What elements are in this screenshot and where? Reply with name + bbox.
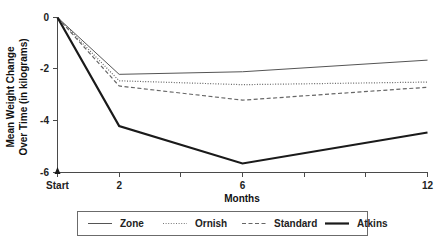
series-line-atkins [58, 18, 428, 164]
y-axis-ticks: 0 -2 -4 -6 [40, 12, 57, 178]
start-marker-icon [55, 167, 61, 174]
series-group [58, 18, 428, 164]
legend-label-zone: Zone [120, 218, 144, 229]
y-axis-title: Mean Weight Change Over Time (in kilogra… [5, 38, 29, 155]
y-axis-title-line-1: Mean Weight Change [5, 46, 16, 147]
x-tick-label-12: 12 [422, 180, 434, 191]
x-tick-label-start: Start [46, 180, 69, 191]
x-tick-label-2: 2 [116, 180, 122, 191]
legend-label-ornish: Ornish [195, 218, 227, 229]
series-line-standard [58, 18, 428, 101]
x-tick-label-6: 6 [240, 180, 246, 191]
y-tick-label-0: 0 [43, 12, 49, 23]
weight-change-line-chart: Mean Weight Change Over Time (in kilogra… [0, 0, 438, 241]
legend-label-standard: Standard [274, 218, 317, 229]
series-line-zone [58, 18, 428, 75]
x-axis-tick-labels: Start 2 6 12 [46, 180, 433, 191]
y-axis-title-line-2: Over Time (in kilograms) [18, 38, 29, 155]
y-tick-label-2: -4 [40, 115, 49, 126]
y-tick-label-1: -2 [40, 63, 49, 74]
x-axis-ticks [58, 173, 428, 178]
series-line-ornish [58, 18, 428, 85]
x-axis-title: Months [224, 193, 260, 204]
chart-legend: Zone Ornish Standard Atkins [78, 212, 389, 236]
legend-label-atkins: Atkins [357, 218, 388, 229]
y-tick-label-3: -6 [40, 167, 49, 178]
chart-canvas: Mean Weight Change Over Time (in kilogra… [0, 0, 438, 241]
